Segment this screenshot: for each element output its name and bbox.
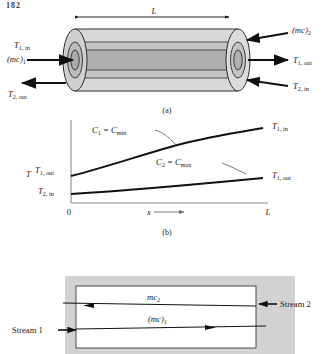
- length-dimension: L: [79, 6, 229, 17]
- figure-c: mc2 (mc)1 Stream 1 Stream 2: [12, 276, 311, 354]
- label-T1-out: T1, out: [293, 55, 312, 66]
- arrow-stream2-inlet-top: [247, 33, 288, 40]
- y-axis-label: T: [26, 169, 32, 179]
- caption-a: (a): [163, 106, 172, 115]
- label-T1-in: T1, in: [14, 40, 30, 51]
- figure-svg: 182 L: [0, 0, 335, 354]
- x-axis-arrow: x: [146, 207, 184, 217]
- label-b-T1-out-left: T1, out: [35, 165, 54, 176]
- page-header-number: 182: [6, 1, 21, 10]
- label-mc-1: (mc)1: [7, 54, 26, 65]
- label-T2-in: T2, in: [293, 81, 309, 92]
- heat-exchanger-cylinder: [63, 29, 250, 91]
- label-stream-2: Stream 2: [280, 299, 311, 309]
- arrow-stream2-inlet-bottom: [247, 80, 288, 86]
- caption-b: (b): [162, 228, 172, 237]
- length-label: L: [151, 6, 157, 16]
- label-b-T1-in-right: T1, in: [272, 121, 288, 132]
- label-c1-cmin: C1 = Cmin: [92, 125, 126, 136]
- x-tick-0: 0: [67, 207, 71, 217]
- label-b-T2-in-left: T2, in: [38, 186, 54, 197]
- figure-b: T 0 L x C1 = Cmin C2 = Cmax T1, out T2, …: [26, 120, 291, 237]
- label-T2-out: T2, out: [8, 89, 27, 100]
- leader-c2: [222, 163, 246, 174]
- x-axis-label: x: [146, 207, 151, 217]
- figure-a: L: [7, 6, 312, 115]
- exchanger-box: [76, 286, 256, 348]
- x-tick-L: L: [265, 207, 271, 217]
- label-mc-2: (mc)2: [292, 25, 311, 36]
- figure-container: 182 L: [0, 0, 335, 354]
- label-b-T1-out-right: T1, out: [272, 170, 291, 181]
- label-c2-cmax: C2 = Cmax: [156, 157, 192, 168]
- label-stream-1: Stream 1: [12, 325, 43, 335]
- curve-c2-cmax: [71, 178, 263, 194]
- leader-c1: [155, 130, 176, 145]
